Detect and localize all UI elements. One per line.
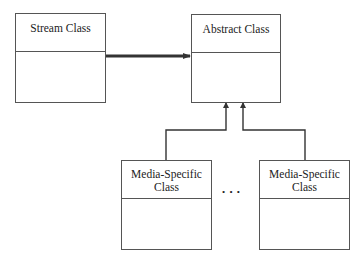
media-specific-class-box-right: Media-Specific Class <box>259 160 350 250</box>
media-specific-class-name-line2: Class <box>260 181 349 194</box>
stream-class-name: Stream Class <box>30 22 90 34</box>
inheritance-connector-right <box>243 103 305 160</box>
stream-class-header: Stream Class <box>16 14 105 52</box>
abstract-class-box: Abstract Class <box>191 14 281 103</box>
media-specific-class-name-line1: Media-Specific <box>122 168 211 181</box>
media-specific-class-name-line2: Class <box>122 181 211 194</box>
ellipsis: • • • <box>222 187 241 197</box>
abstract-class-header: Abstract Class <box>192 15 280 53</box>
media-specific-class-name-line1: Media-Specific <box>260 168 349 181</box>
media-specific-class-body-left <box>122 199 211 249</box>
media-specific-class-body-right <box>260 199 349 249</box>
media-specific-class-header-right: Media-Specific Class <box>260 161 349 199</box>
abstract-class-body <box>192 53 280 102</box>
stream-class-body <box>16 52 105 102</box>
inheritance-connector-left <box>166 103 226 160</box>
stream-class-box: Stream Class <box>15 13 106 103</box>
media-specific-class-header-left: Media-Specific Class <box>122 161 211 199</box>
media-specific-class-box-left: Media-Specific Class <box>121 160 212 250</box>
abstract-class-name: Abstract Class <box>203 23 270 35</box>
